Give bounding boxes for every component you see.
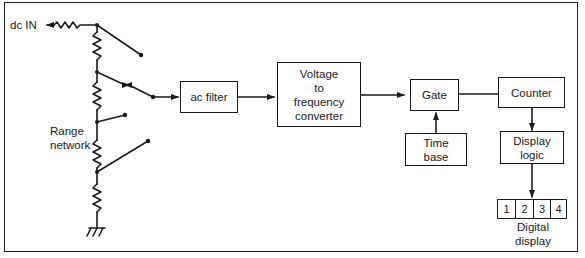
ac-filter-block: ac filter xyxy=(180,81,238,113)
range-switch-taps xyxy=(97,25,153,172)
display-digit-4: 4 xyxy=(550,199,567,219)
time-base-block: Time base xyxy=(405,133,467,166)
display-logic-block: Display logic xyxy=(500,131,564,164)
gate-block: Gate xyxy=(410,79,459,111)
dc-input-label: dc IN xyxy=(10,18,37,32)
input-resistor xyxy=(47,22,97,28)
display-digit-2: 2 xyxy=(515,199,534,219)
voltage-to-frequency-converter-block: Voltage to frequency converter xyxy=(277,62,361,127)
ground-icon xyxy=(87,228,105,236)
digital-display-label: Digital display xyxy=(510,220,556,248)
counter-block: Counter xyxy=(498,77,565,108)
junction-dots xyxy=(95,23,155,174)
range-network-label: Range network xyxy=(50,124,90,152)
range-network-resistors xyxy=(93,25,101,228)
display-digit-1: 1 xyxy=(497,199,516,219)
display-digit-3: 3 xyxy=(533,199,551,219)
